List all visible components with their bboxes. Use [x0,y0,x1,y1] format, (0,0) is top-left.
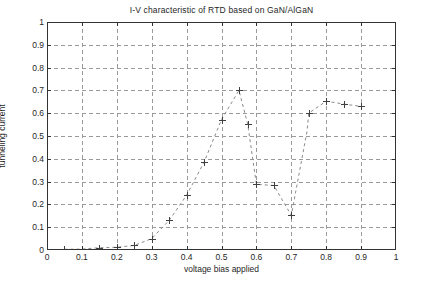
x-tick-label: 0.3 [137,252,167,262]
x-tick-label: 0.8 [311,252,341,262]
y-tick-label: 0.7 [18,85,44,95]
data-point-marker [271,182,278,189]
y-tick-label: 0.1 [18,222,44,232]
y-tick-label: 0.2 [18,199,44,209]
grid-lines [47,22,396,250]
figure-canvas: I-V characteristic of RTD based on GaN/A… [0,0,438,288]
x-tick-label: 0 [32,252,62,262]
x-tick-label: 1 [381,252,411,262]
x-tick-label: 0.4 [172,252,202,262]
x-tick-label: 0.6 [241,252,271,262]
x-axis-label: voltage bias applied [47,264,396,274]
y-tick-label: 0.4 [18,154,44,164]
plot-area [47,22,396,250]
y-tick-label: 0.6 [18,108,44,118]
y-tick-label: 1 [18,17,44,27]
x-tick-label: 0.9 [346,252,376,262]
x-tick-label: 0.7 [276,252,306,262]
x-tick-label: 0.1 [67,252,97,262]
plot-svg [47,22,396,250]
data-point-marker [184,192,191,199]
y-tick-label: 0.5 [18,131,44,141]
x-tick-label: 0.2 [102,252,132,262]
y-axis-label: tunneling current [0,104,7,167]
data-point-marker [288,212,295,219]
y-tick-label: 0.3 [18,177,44,187]
data-point-marker [358,103,365,110]
y-tick-label: 0.9 [18,40,44,50]
x-tick-label: 0.5 [207,252,237,262]
y-tick-label: 0.8 [18,63,44,73]
data-point-marker [131,242,138,249]
data-series-iv-curve [61,87,365,250]
data-point-marker [245,121,252,128]
y-axis-tick-labels: 00.10.20.30.40.50.60.70.80.91 [14,22,44,250]
data-point-marker [201,159,208,166]
data-point-marker [341,101,348,108]
data-point-marker [149,236,156,243]
chart-title: I-V characteristic of RTD based on GaN/A… [47,5,396,15]
data-point-marker [323,98,330,105]
series-line [64,90,361,249]
